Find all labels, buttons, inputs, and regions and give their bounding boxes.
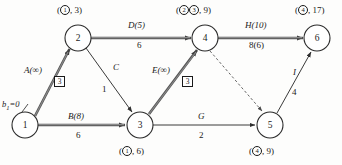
node-3-label: 3 <box>138 120 143 130</box>
node-5[interactable]: 5 <box>257 112 283 138</box>
node-3[interactable]: 3 <box>127 112 153 138</box>
edge-E-name: E(∞) <box>152 66 170 75</box>
node-state-5: (4, 9) <box>249 146 274 156</box>
edge-I-weight: 4 <box>292 88 297 97</box>
edge-B-weight: 6 <box>76 131 81 140</box>
edge-G-weight: 2 <box>199 131 204 140</box>
edge-A-flow-box: 3 <box>54 76 65 87</box>
node-4-label: 4 <box>203 33 208 43</box>
node-2-label: 2 <box>76 33 81 43</box>
circled-mark: 1 <box>122 146 132 156</box>
node-state-value: 9 <box>204 5 209 15</box>
node-6[interactable]: 6 <box>304 25 330 51</box>
graph-svg: 1 2 3 4 5 6 <box>0 0 342 165</box>
edge-H-weight: 8(6) <box>249 41 264 50</box>
edge-C-weight: 1 <box>102 85 107 94</box>
node-1[interactable]: 1 <box>12 112 38 138</box>
circled-mark: 4 <box>252 146 262 156</box>
node-state-6: (4, 17) <box>295 5 325 15</box>
node-2[interactable]: 2 <box>65 25 91 51</box>
node-state-value: 17 <box>313 5 322 15</box>
edge-C-name: C <box>113 63 119 72</box>
edge-E-flow-box: 3 <box>182 76 193 87</box>
circled-mark: 1 <box>60 5 70 15</box>
node-state-value: 6 <box>137 146 142 156</box>
node-state-value: 3 <box>75 5 80 15</box>
circled-mark: 4 <box>298 5 308 15</box>
edge-B-name: B(8) <box>68 112 84 121</box>
supply-tick-line <box>22 104 28 112</box>
edge-H-name: H(10) <box>245 21 267 30</box>
edge-I-name: I <box>293 68 296 77</box>
edge-D-name: D(5) <box>128 21 145 30</box>
node-state-3: (1, 6) <box>119 146 144 156</box>
edge-G-name: G <box>198 112 205 121</box>
edge-D-weight: 6 <box>137 41 142 50</box>
circled-mark: 2 <box>179 5 189 15</box>
edge-C-2-to-3 <box>86 48 132 112</box>
edge-A-name: A(∞) <box>24 66 42 75</box>
network-diagram-canvas: 1 2 3 4 5 6 b1=0 (1, 3) (23, 9) <box>0 0 342 165</box>
edge-F-4-to-5-dashed <box>210 51 262 111</box>
node-state-value: 9 <box>267 146 272 156</box>
node-4[interactable]: 4 <box>192 25 218 51</box>
node-state-4: (23, 9) <box>176 5 211 15</box>
node-6-label: 6 <box>315 33 320 43</box>
supply-label-node-1: b1=0 <box>2 100 20 111</box>
edge-I-5-to-6 <box>277 52 311 113</box>
node-1-label: 1 <box>23 120 28 130</box>
circled-mark: 3 <box>189 5 199 15</box>
node-5-label: 5 <box>268 120 273 130</box>
node-state-2: (1, 3) <box>57 5 82 15</box>
